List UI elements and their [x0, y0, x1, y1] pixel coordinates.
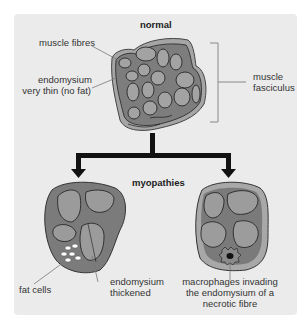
label-macrophages-2: the endomysium of a	[180, 287, 280, 298]
label-fasciculus-2: fasciculus	[253, 82, 295, 93]
myopathies-title: myopathies	[132, 177, 185, 188]
label-endomysium-thin-2: very thin (no fat)	[0, 85, 91, 96]
diagram-figure	[0, 0, 308, 321]
leader-muscle-fibres	[92, 46, 118, 60]
normal-title: normal	[140, 19, 172, 30]
label-endomysium-thick-2: thickened	[110, 287, 151, 298]
label-fat-cells: fat cells	[19, 284, 51, 295]
myopathy-fascicle-fat	[45, 182, 126, 273]
leader-fat-cells	[34, 262, 64, 284]
label-muscle-fibres: muscle fibres	[39, 37, 95, 48]
label-endomysium-thin-1: endomysium	[38, 74, 91, 85]
label-fasciculus-1: muscle	[253, 71, 283, 82]
branch-arrows	[71, 133, 236, 178]
label-macrophages-3: necrotic fibre	[180, 298, 280, 309]
label-endomysium-thick-1: endomysium	[110, 276, 164, 287]
label-macrophages-1: macrophages invading	[180, 276, 280, 287]
myopathy-fascicle-macrophage	[196, 182, 268, 270]
normal-fascicle	[112, 38, 206, 130]
fasciculus-bracket	[210, 43, 246, 122]
